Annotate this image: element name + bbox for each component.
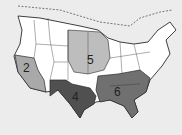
region-5 <box>68 30 110 74</box>
region-5-label: 5 <box>87 53 94 67</box>
region-2-label: 2 <box>23 61 30 75</box>
region-6-label: 6 <box>114 85 121 99</box>
region-6 <box>96 70 150 118</box>
region-4-label: 4 <box>72 90 79 104</box>
us-region-map: 2 4 5 6 <box>0 0 182 135</box>
